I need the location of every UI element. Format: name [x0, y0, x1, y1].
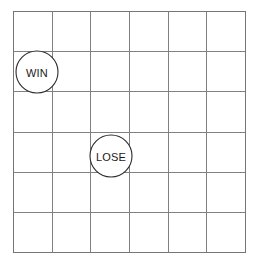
marker-lose[interactable]: LOSE: [90, 135, 132, 177]
grid-board: WINLOSE: [0, 0, 258, 263]
grid-cell-r1-c4[interactable]: [129, 11, 168, 51]
grid-cell-r1-c5[interactable]: [168, 11, 207, 51]
grid-cell-r4-c2[interactable]: [52, 132, 91, 172]
grid-cell-r3-c2[interactable]: [52, 91, 91, 131]
grid-cell-r4-c4[interactable]: [129, 132, 168, 172]
grid-cell-r3-c3[interactable]: [90, 91, 129, 131]
grid-cell-r5-c6[interactable]: [206, 172, 245, 212]
grid-cell-r2-c3[interactable]: [90, 51, 129, 91]
grid-cell-r6-c3[interactable]: [90, 212, 129, 252]
grid-cell-r1-c6[interactable]: [206, 11, 245, 51]
grid-cell-r6-c5[interactable]: [168, 212, 207, 252]
grid-cell-r3-c1[interactable]: [13, 91, 52, 131]
grid-canvas: WINLOSE: [0, 0, 258, 263]
grid-cell-r4-c1[interactable]: [13, 132, 52, 172]
grid-cell-r4-c5[interactable]: [168, 132, 207, 172]
grid-cell-r5-c3[interactable]: [90, 172, 129, 212]
marker-win-label: WIN: [26, 67, 48, 79]
grid-cell-r2-c6[interactable]: [206, 51, 245, 91]
grid-cell-r4-c6[interactable]: [206, 132, 245, 172]
grid-cell-r3-c6[interactable]: [206, 91, 245, 131]
grid-cell-r6-c6[interactable]: [206, 212, 245, 252]
grid-cell-r6-c1[interactable]: [13, 212, 52, 252]
marker-lose-label: LOSE: [96, 151, 126, 163]
grid-cell-r6-c2[interactable]: [52, 212, 91, 252]
grid-cell-r2-c5[interactable]: [168, 51, 207, 91]
grid-cell-r5-c2[interactable]: [52, 172, 91, 212]
marker-win[interactable]: WIN: [16, 51, 58, 93]
grid-cell-r2-c4[interactable]: [129, 51, 168, 91]
grid-cell-r5-c5[interactable]: [168, 172, 207, 212]
grid-cell-r5-c1[interactable]: [13, 172, 52, 212]
grid-cell-r1-c3[interactable]: [90, 11, 129, 51]
grid-cell-r1-c1[interactable]: [13, 11, 52, 51]
grid-cell-r3-c4[interactable]: [129, 91, 168, 131]
grid-cell-r3-c5[interactable]: [168, 91, 207, 131]
grid-cell-r1-c2[interactable]: [52, 11, 91, 51]
grid-cell-r6-c4[interactable]: [129, 212, 168, 252]
grid-cell-r5-c4[interactable]: [129, 172, 168, 212]
